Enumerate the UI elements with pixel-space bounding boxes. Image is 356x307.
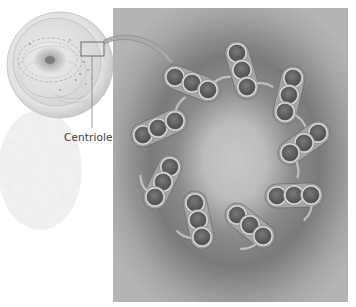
- centriole-label: Centriole: [64, 131, 113, 143]
- cell-illustration: [7, 12, 113, 118]
- figure-canvas: [0, 0, 356, 307]
- centriole-figure: Centriole: [0, 0, 356, 307]
- faded-background-texture: [0, 110, 82, 230]
